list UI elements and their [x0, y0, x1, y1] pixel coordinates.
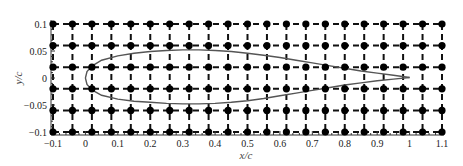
- grid-node-marker: [224, 20, 231, 27]
- y-tick-labels: 0.10.050−0.05−0.1: [24, 19, 47, 138]
- grid-node-marker: [127, 64, 134, 71]
- grid-node-marker: [108, 64, 115, 71]
- y-tick-label: 0.05: [30, 46, 48, 57]
- grid-node-marker: [108, 42, 115, 49]
- grid-node-marker: [127, 107, 134, 114]
- grid-node-marker: [361, 20, 368, 27]
- x-tick-label: 0.3: [176, 138, 189, 149]
- x-tick-label: 1.1: [436, 138, 449, 149]
- grid-node-marker: [49, 42, 56, 49]
- grid-node-marker: [244, 42, 251, 49]
- grid-node-marker: [322, 20, 329, 27]
- grid-node-marker: [380, 20, 387, 27]
- grid-node-marker: [341, 20, 348, 27]
- grid-node-marker: [88, 85, 95, 92]
- x-tick-label: 0.7: [306, 138, 319, 149]
- grid-node-marker: [283, 20, 290, 27]
- grid-node-marker: [166, 107, 173, 114]
- x-tick-label: 1: [407, 138, 412, 149]
- grid-node-marker: [400, 42, 407, 49]
- grid-node-marker: [69, 42, 76, 49]
- grid-node-marker: [400, 85, 407, 92]
- grid-node-marker: [186, 20, 193, 27]
- grid-node-marker: [419, 20, 426, 27]
- grid-node-marker: [205, 42, 212, 49]
- grid-node-marker: [108, 107, 115, 114]
- grid-node-marker: [224, 42, 231, 49]
- grid-node-marker: [438, 85, 445, 92]
- grid-node-marker: [49, 20, 56, 27]
- grid-node-marker: [322, 128, 329, 135]
- grid-node-marker: [302, 64, 309, 71]
- grid-node-marker: [244, 85, 251, 92]
- grid-node-marker: [400, 20, 407, 27]
- grid-node-marker: [283, 128, 290, 135]
- grid-node-marker: [419, 42, 426, 49]
- grid-node-marker: [361, 85, 368, 92]
- grid-node-marker: [205, 107, 212, 114]
- grid-node-marker: [361, 128, 368, 135]
- grid-node-marker: [69, 20, 76, 27]
- grid-node-marker: [147, 42, 154, 49]
- grid-node-marker: [49, 128, 56, 135]
- grid-node-marker: [400, 64, 407, 71]
- grid-node-marker: [361, 64, 368, 71]
- grid-node-marker: [127, 42, 134, 49]
- grid-node-marker: [205, 20, 212, 27]
- grid-node-marker: [224, 128, 231, 135]
- x-tick-label: 0.6: [274, 138, 287, 149]
- grid-node-marker: [147, 128, 154, 135]
- grid-node-marker: [400, 128, 407, 135]
- grid-node-marker: [69, 128, 76, 135]
- grid-node-marker: [341, 42, 348, 49]
- grid-node-marker: [205, 85, 212, 92]
- grid-node-marker: [166, 64, 173, 71]
- grid-node-marker: [69, 107, 76, 114]
- grid-node-marker: [263, 64, 270, 71]
- x-tick-labels: −0.100.10.20.30.40.50.60.70.80.911.1: [44, 138, 448, 149]
- grid-node-marker: [244, 20, 251, 27]
- grid-node-marker: [302, 128, 309, 135]
- grid-node-marker: [380, 85, 387, 92]
- y-tick-label: −0.05: [24, 100, 47, 111]
- grid-node-marker: [88, 42, 95, 49]
- grid-node-marker: [127, 20, 134, 27]
- grid-node-marker: [419, 85, 426, 92]
- grid-node-marker: [147, 107, 154, 114]
- grid-node-marker: [302, 107, 309, 114]
- grid-node-marker: [263, 128, 270, 135]
- airfoil-grid-chart: −0.100.10.20.30.40.50.60.70.80.911.1 0.1…: [0, 0, 463, 166]
- x-tick-label: 0.8: [339, 138, 352, 149]
- grid-node-marker: [186, 42, 193, 49]
- grid-node-marker: [127, 128, 134, 135]
- grid-node-marker: [302, 85, 309, 92]
- grid-node-marker: [69, 85, 76, 92]
- y-axis-label: y/c: [12, 71, 24, 85]
- grid-node-marker: [302, 20, 309, 27]
- grid-node-marker: [166, 85, 173, 92]
- grid-node-marker: [127, 85, 134, 92]
- grid-node-marker: [147, 64, 154, 71]
- grid-node-marker: [322, 42, 329, 49]
- y-tick-label: 0: [42, 73, 47, 84]
- x-axis-label: x/c: [239, 149, 253, 161]
- grid-node-marker: [166, 20, 173, 27]
- grid-node-marker: [341, 128, 348, 135]
- grid-node-marker: [302, 42, 309, 49]
- grid-node-marker: [166, 42, 173, 49]
- grid-node-marker: [419, 64, 426, 71]
- grid-node-marker: [88, 107, 95, 114]
- grid-node-marker: [147, 85, 154, 92]
- grid-node-marker: [244, 128, 251, 135]
- grid-node-marker: [438, 107, 445, 114]
- grid-node-marker: [380, 64, 387, 71]
- grid-lines: [53, 24, 442, 132]
- grid-node-marker: [69, 64, 76, 71]
- grid-node-marker: [380, 128, 387, 135]
- grid-node-marker: [341, 85, 348, 92]
- grid-node-marker: [205, 64, 212, 71]
- grid-node-marker: [166, 128, 173, 135]
- x-tick-label: −0.1: [44, 138, 62, 149]
- grid-node-marker: [438, 128, 445, 135]
- grid-node-marker: [263, 107, 270, 114]
